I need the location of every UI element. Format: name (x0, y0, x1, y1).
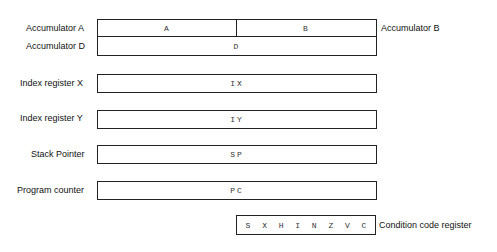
acc-a-label: Accumulator A (26, 22, 84, 34)
pc-box: PC (97, 181, 377, 200)
ccr-label: Condition code register (379, 219, 472, 231)
ix-field: IX (230, 79, 244, 88)
ccr-bit-v: V (341, 221, 353, 230)
ccr-bit-h: H (275, 221, 287, 230)
sp-label: Stack Pointer (31, 148, 85, 160)
acc-d-field: D (234, 42, 241, 51)
ix-box: IX (97, 74, 377, 93)
iy-field: IY (230, 115, 244, 124)
ccr-bit-x: X (259, 221, 271, 230)
ccr-bit-n: N (308, 221, 320, 230)
ccr-bit-i: I (292, 221, 304, 230)
acc-a-field: A (164, 24, 171, 33)
pc-field: PC (230, 186, 244, 195)
sp-field: SP (230, 150, 244, 159)
ccr-box: S X H I N Z V C (236, 215, 376, 235)
ccr-bit-s: S (242, 221, 254, 230)
sp-box: SP (97, 145, 377, 164)
ix-label: Index register X (20, 77, 83, 89)
ccr-bit-c: C (358, 221, 370, 230)
acc-d-label: Accumulator D (26, 40, 85, 52)
iy-box: IY (97, 110, 377, 129)
acc-b-label: Accumulator B (381, 22, 440, 34)
acc-d-box: D (97, 36, 377, 56)
pc-label: Program counter (17, 184, 84, 196)
ccr-bit-z: Z (325, 221, 337, 230)
acc-b-field: B (303, 24, 310, 33)
iy-label: Index register Y (20, 112, 83, 124)
